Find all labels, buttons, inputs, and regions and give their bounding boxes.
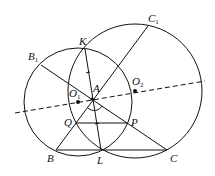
- label-b1: B1: [28, 51, 38, 64]
- label-p: P: [131, 117, 138, 128]
- diagram-svg: [0, 0, 215, 176]
- label-q: Q: [64, 117, 72, 128]
- label-o1: O1: [69, 88, 80, 101]
- dashed-center-line: [15, 81, 205, 113]
- label-k: K: [79, 36, 86, 47]
- point-o2: [133, 89, 137, 93]
- label-c1: C1: [148, 13, 159, 26]
- geometry-diagram: K B1 C1 A O1 O2 Q P B L C: [0, 0, 215, 176]
- tick-mark-upper: [86, 72, 90, 73]
- label-a: A: [93, 83, 100, 94]
- segment-b1c: [41, 65, 167, 150]
- point-a: [91, 98, 94, 101]
- label-b: B: [47, 153, 54, 164]
- label-o2: O2: [132, 76, 143, 89]
- label-c: C: [170, 153, 177, 164]
- label-l: L: [97, 155, 103, 166]
